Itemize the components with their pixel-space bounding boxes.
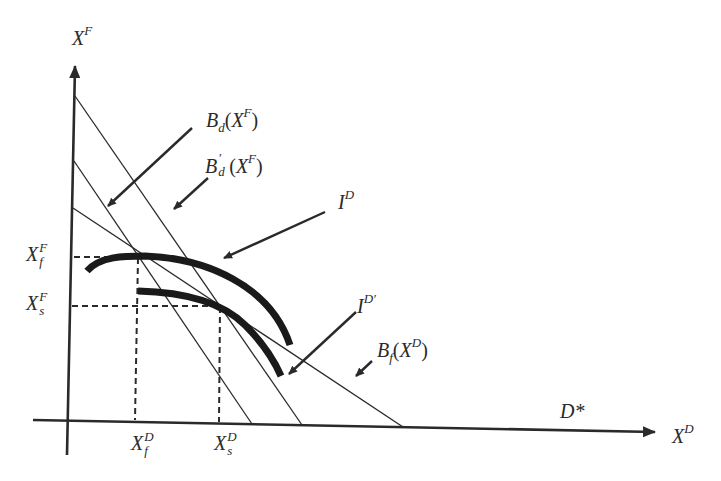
dashed-xs-d: [219, 307, 220, 422]
label-xf-f-sup: F: [39, 241, 47, 254]
x-axis-label-base: X: [672, 425, 684, 447]
label-id-sup: D: [345, 187, 354, 202]
reaction-function-diagram: [0, 0, 721, 481]
label-d-star: D*: [560, 401, 584, 421]
label-xf-d-sub: f: [144, 444, 148, 457]
label-xs-d-sub: s: [227, 444, 232, 457]
arrow-bf: [356, 361, 372, 376]
label-bd-prime-mark: ′: [218, 151, 221, 164]
label-bf: Bf(XD): [377, 338, 428, 364]
arrow-id-prime: [289, 312, 356, 374]
label-xf-d-sup: D: [144, 430, 153, 443]
label-id-base: I: [338, 191, 345, 213]
arrow-bd: [108, 128, 192, 206]
label-bf-arg-sup: D: [412, 335, 421, 350]
label-bd-prime: B′d(XF): [205, 154, 263, 176]
y-axis-label-sup: F: [84, 23, 92, 38]
label-xf-f: XFf: [26, 244, 50, 264]
y-axis-label: XF: [72, 26, 92, 48]
arrow-bd-prime: [174, 178, 208, 209]
label-xs-d-base: X: [214, 432, 226, 454]
label-xs-f: XFs: [26, 293, 50, 313]
label-id-prime-base: I: [357, 295, 364, 317]
label-xf-d-base: X: [131, 432, 143, 454]
label-xs-f-base: X: [26, 292, 38, 314]
arrow-id: [224, 212, 325, 258]
label-xs-d-sup: D: [227, 430, 236, 443]
label-bd-base: B: [206, 109, 218, 131]
label-bd-prime-base: B: [205, 155, 217, 177]
label-bf-base: B: [377, 339, 389, 361]
label-id: ID: [338, 190, 354, 212]
x-axis-label-sup: D: [684, 421, 693, 436]
label-id-prime-sup: D′: [364, 291, 376, 306]
label-xs-d: XDs: [214, 433, 238, 453]
y-axis-label-base: X: [72, 27, 84, 49]
label-bd-arg: X: [231, 109, 243, 131]
label-bd-prime-arg-sup: F: [248, 151, 256, 166]
label-xs-f-sup: F: [39, 290, 47, 303]
dashed-xf-d: [135, 258, 138, 420]
label-xf-f-base: X: [26, 243, 38, 265]
label-bf-arg: X: [400, 339, 412, 361]
x-axis-label: XD: [672, 424, 694, 446]
label-xf-f-sub: f: [39, 255, 43, 268]
label-xf-d: XDf: [131, 433, 155, 453]
label-xs-f-sub: s: [39, 304, 44, 317]
label-bd-arg-sup: F: [244, 105, 252, 120]
label-bd-prime-sub: d: [218, 165, 225, 178]
label-bd: Bd(XF): [206, 108, 258, 134]
label-id-prime: ID′: [357, 294, 376, 316]
label-bd-prime-arg: X: [236, 155, 248, 177]
y-axis: [67, 66, 75, 455]
